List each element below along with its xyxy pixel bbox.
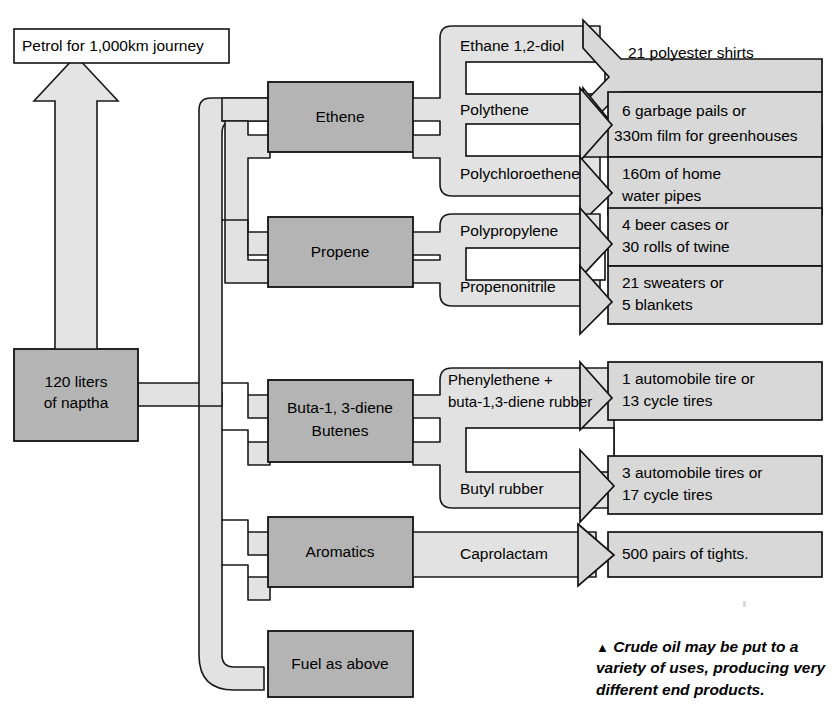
branch-pipe-ethene-lower bbox=[222, 121, 270, 283]
product-label-automobile-tires-3-line2: 17 cycle tires bbox=[622, 486, 713, 503]
product-label-sweaters-line1: 21 sweaters or bbox=[622, 274, 724, 291]
product-label-automobile-tire-line1: 1 automobile tire or bbox=[622, 370, 755, 387]
product-label-sweaters-line2: 5 blankets bbox=[622, 296, 693, 313]
fraction-label-ethene: Ethene bbox=[315, 108, 364, 125]
crude-oil-flow-diagram: 120 liters of naptha Petrol for 1,000km … bbox=[0, 0, 836, 714]
petrol-label: Petrol for 1,000km journey bbox=[22, 37, 204, 54]
intermediate-label-polychloroethene: Polychloroethene bbox=[460, 165, 580, 182]
product-label-tights: 500 pairs of tights. bbox=[622, 545, 749, 562]
petrol-up-arrow-icon bbox=[34, 56, 118, 349]
fraction-label-butadiene-line2: Butenes bbox=[312, 422, 369, 439]
intermediate-label-propenonitrile: Propenonitrile bbox=[460, 278, 556, 295]
intermediate-label-phenylethene-line2: buta-1,3-diene rubber bbox=[448, 393, 592, 410]
caption-triangle-icon: ▲ bbox=[596, 640, 609, 655]
intermediate-label-butyl-rubber: Butyl rubber bbox=[460, 480, 544, 497]
intermediate-label-phenylethene-line1: Phenylethene + bbox=[448, 371, 553, 388]
product-label-polyester-shirts: 21 polyester shirts bbox=[628, 44, 754, 61]
intermediate-label-polythene: Polythene bbox=[460, 101, 529, 118]
product-label-automobile-tires-3-line1: 3 automobile tires or bbox=[622, 464, 762, 481]
branch-pipe-aromatics-lower bbox=[222, 565, 270, 600]
intermediate-label-ethane-diol: Ethane 1,2-diol bbox=[460, 37, 564, 54]
product-label-automobile-tire-line2: 13 cycle tires bbox=[622, 392, 713, 409]
fraction-box-butadiene[interactable] bbox=[268, 380, 413, 462]
source-label-line1: 120 liters bbox=[45, 373, 108, 390]
product-label-beer-cases-line1: 4 beer cases or bbox=[622, 216, 729, 233]
branch-pipe-butadiene bbox=[222, 383, 270, 418]
main-trunk-pipe bbox=[138, 383, 264, 690]
product-label-beer-cases-line2: 30 rolls of twine bbox=[622, 238, 730, 255]
product-label-water-pipes-line2: water pipes bbox=[621, 187, 702, 204]
scan-speck bbox=[743, 601, 746, 607]
source-label-line2: of naptha bbox=[44, 394, 109, 411]
branch-pipe-aromatics-upper bbox=[222, 520, 270, 555]
diagram-canvas: 120 liters of naptha Petrol for 1,000km … bbox=[0, 0, 836, 714]
fraction-label-fuel: Fuel as above bbox=[291, 655, 388, 672]
branch-pipe-ethene-upper bbox=[222, 98, 270, 121]
branch-pipe-butadiene-lower bbox=[222, 430, 270, 465]
intermediate-label-polypropylene: Polypropylene bbox=[460, 222, 558, 239]
product-label-garbage-pails-line2: 330m film for greenhouses bbox=[614, 127, 798, 144]
caption: ▲ Crude oil may be put to a variety of u… bbox=[596, 636, 826, 700]
fraction-label-propene: Propene bbox=[311, 243, 370, 260]
product-label-garbage-pails-line1: 6 garbage pails or bbox=[622, 102, 746, 119]
caption-line1: Crude oil may be put to bbox=[613, 638, 785, 655]
product-label-water-pipes-line1: 160m of home bbox=[622, 165, 721, 182]
fraction-label-butadiene-line1: Buta-1, 3-diene bbox=[287, 399, 393, 416]
intermediate-label-caprolactam: Caprolactam bbox=[460, 545, 548, 562]
fraction-label-aromatics: Aromatics bbox=[306, 543, 375, 560]
